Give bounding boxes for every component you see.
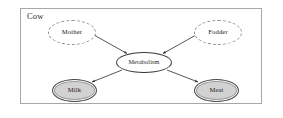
node-mother[interactable]: Mother bbox=[48, 20, 96, 45]
node-milk[interactable]: Milk bbox=[52, 79, 97, 102]
node-mother-label: Mother bbox=[62, 29, 82, 36]
node-meat-label: Meat bbox=[209, 87, 223, 94]
node-metabolism-label: Metabolism bbox=[128, 59, 159, 65]
node-metabolism[interactable]: Metabolism bbox=[116, 52, 172, 73]
diagram-canvas: Cow Mother Fodder Metabolism Milk Meat bbox=[0, 0, 283, 118]
node-meat[interactable]: Meat bbox=[194, 79, 239, 102]
node-milk-label: Milk bbox=[68, 87, 81, 94]
node-fodder-label: Fodder bbox=[208, 29, 228, 36]
container-label-cow: Cow bbox=[27, 12, 44, 21]
node-fodder[interactable]: Fodder bbox=[194, 20, 242, 45]
